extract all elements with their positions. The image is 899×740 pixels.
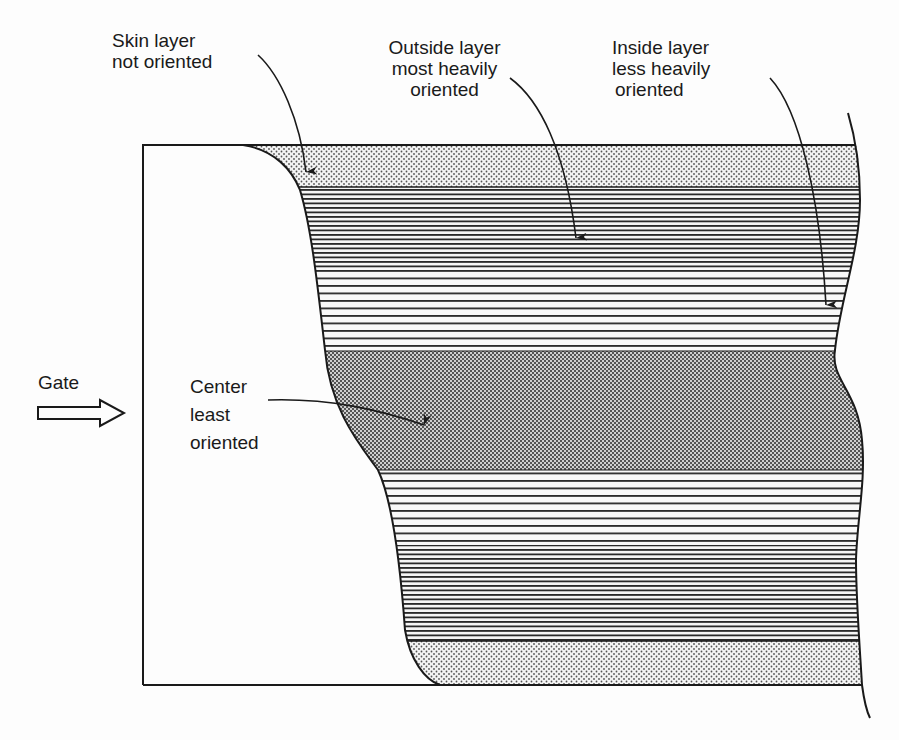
outside-layer-bottom	[200, 545, 899, 641]
outside-layer-top	[200, 187, 899, 268]
gate-arrow-icon	[38, 400, 124, 426]
inside-layer-bottom	[200, 470, 899, 545]
layer-fills	[200, 145, 899, 685]
inside-layer-label: Inside layer less heavily oriented	[612, 37, 710, 100]
skin-label-line-1: Skin layer	[112, 30, 212, 51]
diagram-canvas	[0, 0, 899, 740]
center-label-line-1: Center	[190, 373, 259, 401]
skin-layer-bottom	[200, 641, 899, 685]
skin-layer-label: Skin layer not oriented	[112, 30, 212, 72]
inside-label-line-2: less heavily	[612, 58, 710, 79]
center-layer-label: Center least oriented	[190, 373, 259, 457]
outside-label-line-1: Outside layer	[362, 37, 527, 58]
skin-label-line-2: not oriented	[112, 51, 212, 72]
outside-label-line-2: most heavily	[362, 58, 527, 79]
center-label-line-2: least	[190, 401, 259, 429]
inside-label-line-1: Inside layer	[612, 37, 710, 58]
inside-layer-top	[200, 268, 899, 351]
inside-label-line-3: oriented	[612, 79, 710, 100]
center-layer	[200, 351, 899, 470]
outside-layer-label: Outside layer most heavily oriented	[362, 37, 527, 100]
center-label-line-3: oriented	[190, 429, 259, 457]
gate-label: Gate	[38, 372, 79, 393]
outside-label-line-3: oriented	[362, 79, 527, 100]
gate-label-text: Gate	[38, 372, 79, 393]
